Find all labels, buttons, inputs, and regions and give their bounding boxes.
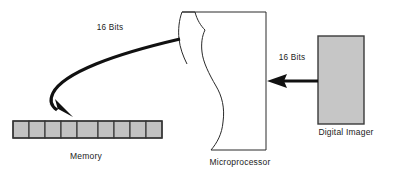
diagram-canvas: 16 Bits 16 Bits Memory Microprocessor Di… — [0, 0, 400, 181]
memory-cell — [114, 121, 130, 138]
node-digital-imager[interactable] — [318, 36, 364, 124]
memory-cell — [98, 121, 114, 138]
label-microprocessor: Microprocessor — [210, 157, 271, 167]
memory-cell — [61, 121, 77, 138]
connection-cpu-to-memory[interactable] — [49, 39, 180, 117]
memory-cell — [77, 121, 98, 138]
microprocessor-left-wall — [179, 12, 187, 64]
label-bits-memory: 16 Bits — [97, 23, 123, 32]
microprocessor-left-edge — [179, 12, 187, 64]
memory-cell — [13, 121, 29, 138]
label-bits-imager: 16 Bits — [279, 53, 305, 62]
microprocessor-outline — [182, 12, 266, 150]
label-digital-imager: Digital Imager — [318, 127, 373, 137]
memory-cell — [29, 121, 45, 138]
memory-cell — [130, 121, 146, 138]
memory-cell — [146, 121, 162, 138]
memory-cell — [45, 121, 61, 138]
connection-imager-to-cpu[interactable] — [267, 74, 318, 88]
diagram-svg: 16 Bits 16 Bits Memory Microprocessor Di… — [0, 0, 400, 181]
label-memory: Memory — [70, 151, 102, 161]
node-microprocessor[interactable] — [182, 12, 266, 150]
imager-arrow-head — [267, 74, 287, 88]
digital-imager-box — [318, 36, 364, 124]
node-memory[interactable] — [13, 121, 162, 138]
memory-curve-shaft — [51, 39, 180, 110]
